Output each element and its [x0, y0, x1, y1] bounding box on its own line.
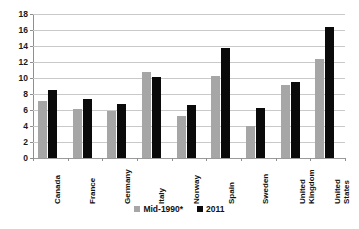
legend-item-2011[interactable]: 2011	[197, 205, 224, 214]
y-tick-label-4: 4	[0, 122, 28, 131]
x-axis-category-labels: CanadaFranceGermanyItalyNorwaySpainSwede…	[33, 160, 345, 206]
x-axis-label-line: Spain	[227, 182, 236, 204]
plot-area	[33, 14, 345, 158]
legend-swatch-gray-icon	[134, 206, 140, 212]
bar-group	[107, 14, 126, 158]
legend-label-2011: 2011	[206, 205, 224, 214]
y-tick-label-0: 0	[0, 154, 28, 163]
bar[interactable]	[73, 109, 82, 158]
bar-group	[73, 14, 92, 158]
bar-group	[246, 14, 265, 158]
y-tick-label-10: 10	[0, 74, 28, 83]
x-axis-label-line: States	[342, 179, 351, 204]
y-tick-label-6: 6	[0, 106, 28, 115]
bar-group	[315, 14, 334, 158]
y-tick-label-8: 8	[0, 90, 28, 99]
bar[interactable]	[152, 77, 161, 158]
bar-group	[281, 14, 300, 158]
x-axis-label-line: France	[88, 178, 97, 204]
legend-swatch-black-icon	[197, 206, 203, 212]
x-axis-label: UnitedStates	[333, 179, 351, 204]
bar[interactable]	[256, 108, 265, 158]
bar-group	[211, 14, 230, 158]
x-axis-label-line: Norway	[192, 175, 201, 204]
y-tick-label-2: 2	[0, 138, 28, 147]
bar[interactable]	[83, 99, 92, 158]
bar-group	[142, 14, 161, 158]
bar[interactable]	[38, 101, 47, 158]
bar[interactable]	[48, 90, 57, 158]
y-tick-label-16: 16	[0, 26, 28, 35]
bar[interactable]	[315, 59, 324, 158]
bar[interactable]	[291, 82, 300, 158]
x-axis-label: Norway	[192, 175, 201, 204]
x-tick-mark	[345, 158, 346, 161]
legend-label-mid-1990: Mid-1990*	[143, 205, 183, 214]
x-axis-label-line: Canada	[53, 175, 62, 204]
x-axis-label-line: United	[298, 169, 307, 204]
chart-legend: Mid-1990* 2011	[0, 205, 359, 214]
bar[interactable]	[187, 105, 196, 158]
x-axis-label-line: Italy	[157, 188, 166, 204]
x-axis-label: Germany	[123, 169, 132, 204]
legend-item-mid-1990[interactable]: Mid-1990*	[134, 205, 183, 214]
bar-chart: 024681012141618 CanadaFranceGermanyItaly…	[0, 0, 359, 229]
x-axis-label: France	[88, 178, 97, 204]
bar[interactable]	[177, 116, 186, 158]
y-tick-label-12: 12	[0, 58, 28, 67]
x-axis-label-line: Sweden	[261, 174, 270, 204]
x-axis-label-line: United	[333, 179, 342, 204]
bar-group	[177, 14, 196, 158]
x-axis-label: Canada	[53, 175, 62, 204]
bar[interactable]	[211, 76, 220, 158]
bar[interactable]	[246, 126, 255, 158]
bar[interactable]	[221, 48, 230, 158]
bar[interactable]	[142, 72, 151, 158]
x-axis-label: Sweden	[261, 174, 270, 204]
y-tick-label-14: 14	[0, 42, 28, 51]
bar[interactable]	[107, 111, 116, 158]
x-axis-label: Spain	[227, 182, 236, 204]
x-axis-label-line: Kingdom	[307, 169, 316, 204]
bar[interactable]	[281, 85, 290, 158]
bar-group	[38, 14, 57, 158]
x-axis-label-line: Germany	[123, 169, 132, 204]
bar[interactable]	[117, 104, 126, 158]
x-axis-label: UnitedKingdom	[298, 169, 316, 204]
bar[interactable]	[325, 27, 334, 158]
y-tick-label-18: 18	[0, 10, 28, 19]
x-axis-label: Italy	[157, 188, 166, 204]
gridline-0	[33, 158, 345, 159]
